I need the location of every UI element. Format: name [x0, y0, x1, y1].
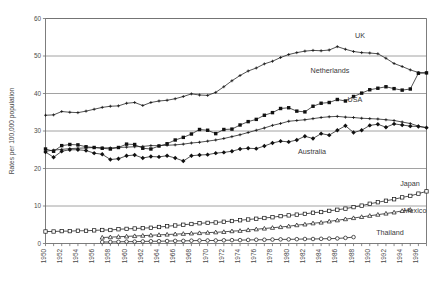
y-tick-label-30: 30 [34, 127, 42, 134]
x-tick-label-1960: 1960 [121, 249, 128, 264]
y-tick-label-60: 60 [34, 15, 42, 22]
line-chart-svg: 0102030405060195019521954195619581960196… [0, 0, 444, 283]
x-tick-label-1956: 1956 [88, 249, 95, 264]
x-tick-label-1988: 1988 [348, 249, 355, 264]
series-label-thailand: Thailand [376, 228, 404, 237]
x-tick-label-1952: 1952 [56, 249, 63, 264]
series-line [102, 237, 353, 242]
x-tick-label-1964: 1964 [153, 249, 160, 264]
x-tick-label-1962: 1962 [137, 249, 144, 264]
series-label-australia: Australia [298, 147, 326, 156]
x-tick-label-1978: 1978 [266, 249, 273, 264]
series-line [46, 73, 427, 151]
series-label-usa: USA [348, 95, 363, 104]
series-australia [43, 122, 428, 164]
series-line [102, 210, 410, 238]
x-tick-label-1980: 1980 [283, 249, 290, 264]
x-tick-label-1996: 1996 [412, 249, 419, 264]
x-tick-label-1984: 1984 [315, 249, 322, 264]
x-tick-label-1968: 1968 [185, 249, 192, 264]
series-label-mexico: Mexico [404, 206, 427, 215]
series-line [46, 47, 427, 116]
x-tick-label-1958: 1958 [104, 249, 111, 264]
y-tick-label-50: 50 [34, 52, 42, 59]
y-tick-label-10: 10 [34, 202, 42, 209]
x-tick-label-1970: 1970 [202, 249, 209, 264]
series-japan [44, 190, 428, 234]
y-tick-label-20: 20 [34, 165, 42, 172]
series-line [46, 191, 427, 231]
x-tick-label-1974: 1974 [234, 249, 241, 264]
x-tick-label-1982: 1982 [299, 249, 306, 264]
series-label-uk: UK [355, 31, 365, 40]
series-mexico [100, 208, 412, 239]
x-tick-label-1954: 1954 [72, 249, 79, 264]
y-tick-label-0: 0 [37, 240, 41, 247]
x-tick-label-1992: 1992 [380, 249, 387, 264]
series-label-japan: Japan [400, 179, 420, 188]
x-tick-label-1966: 1966 [169, 249, 176, 264]
chart-figure: 0102030405060195019521954195619581960196… [0, 0, 444, 283]
series-netherlands [44, 71, 428, 153]
y-tick-label-40: 40 [34, 90, 42, 97]
x-tick-label-1986: 1986 [331, 249, 338, 264]
series-thailand [100, 235, 355, 243]
x-tick-label-1994: 1994 [396, 249, 403, 264]
x-tick-label-1990: 1990 [364, 249, 371, 264]
x-tick-label-1976: 1976 [250, 249, 257, 264]
series-label-netherlands: Netherlands [311, 66, 350, 75]
x-tick-label-1950: 1950 [40, 249, 47, 264]
series-line [46, 116, 427, 151]
y-axis-title: Rates per 100,000 population [8, 87, 16, 174]
x-tick-label-1972: 1972 [218, 249, 225, 264]
